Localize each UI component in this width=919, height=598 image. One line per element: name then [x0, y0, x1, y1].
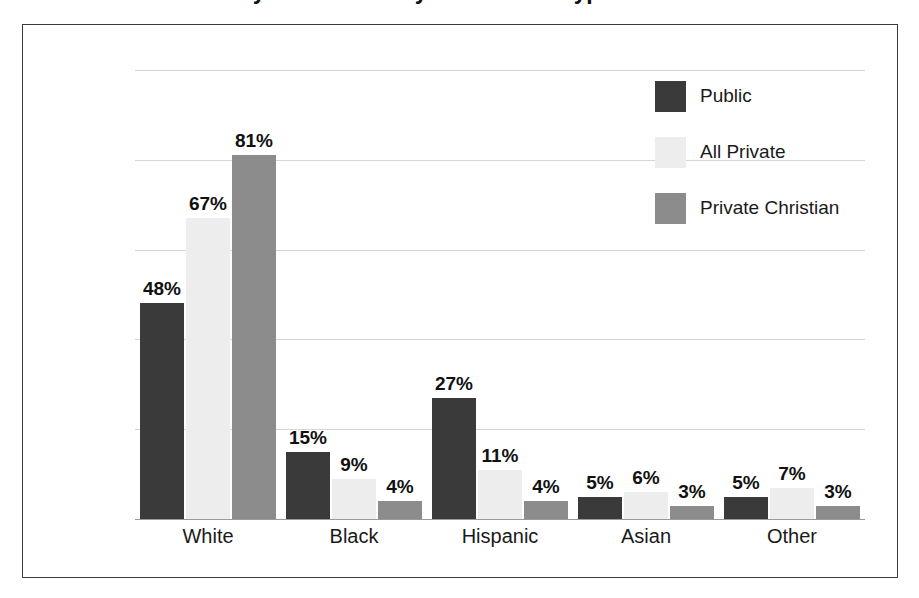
x-tick-label-hispanic: Hispanic [462, 525, 539, 548]
bar[interactable]: 15% [286, 452, 330, 519]
bar[interactable]: 67% [186, 218, 230, 519]
bar[interactable]: 48% [140, 303, 184, 519]
legend-label: Public [700, 85, 752, 107]
legend-item[interactable]: All Private [655, 124, 885, 180]
x-tick-label-black: Black [330, 525, 379, 548]
bar-value-label: 67% [189, 193, 227, 215]
bar-value-label: 3% [824, 481, 851, 503]
bar-value-label: 48% [143, 278, 181, 300]
bar[interactable]: 3% [670, 506, 714, 519]
bar[interactable]: 4% [378, 501, 422, 519]
bar[interactable]: 4% [524, 501, 568, 519]
bar-group-white: 48%67%81%White [135, 70, 281, 519]
bar-value-label: 27% [435, 373, 473, 395]
bar-value-label: 4% [386, 476, 413, 498]
bar[interactable]: 3% [816, 506, 860, 519]
bar-value-label: 81% [235, 130, 273, 152]
legend-item[interactable]: Public [655, 68, 885, 124]
bar-value-label: 7% [778, 463, 805, 485]
legend-swatch-icon [655, 137, 686, 168]
bar-group-hispanic: 27%11%4%Hispanic [427, 70, 573, 519]
bar-group-black: 15%9%4%Black [281, 70, 427, 519]
legend-label: Private Christian [700, 197, 839, 219]
chart-legend: PublicAll PrivatePrivate Christian [655, 68, 885, 236]
bar-value-label: 15% [289, 427, 327, 449]
bar[interactable]: 11% [478, 470, 522, 519]
bar[interactable]: 9% [332, 479, 376, 519]
bar[interactable]: 27% [432, 398, 476, 519]
bar-value-label: 9% [340, 454, 367, 476]
bar-value-label: 3% [678, 481, 705, 503]
bar-value-label: 4% [532, 476, 559, 498]
bar[interactable]: 7% [770, 488, 814, 519]
legend-label: All Private [700, 141, 786, 163]
x-tick-label-other: Other [767, 525, 817, 548]
bar[interactable]: 6% [624, 492, 668, 519]
bar[interactable]: 5% [724, 497, 768, 519]
gridline-0 [135, 519, 865, 520]
legend-swatch-icon [655, 81, 686, 112]
chart-figure: Share of Enrollment by Race/Ethnicity an… [0, 0, 919, 598]
legend-item[interactable]: Private Christian [655, 180, 885, 236]
legend-swatch-icon [655, 193, 686, 224]
chart-title: Share of Enrollment by Race/Ethnicity an… [18, 0, 898, 4]
bar[interactable]: 81% [232, 155, 276, 519]
bar-value-label: 5% [586, 472, 613, 494]
bar-value-label: 5% [732, 472, 759, 494]
x-tick-label-asian: Asian [621, 525, 671, 548]
bar-value-label: 6% [632, 467, 659, 489]
bar-value-label: 11% [482, 445, 519, 467]
x-tick-label-white: White [182, 525, 233, 548]
bar[interactable]: 5% [578, 497, 622, 519]
